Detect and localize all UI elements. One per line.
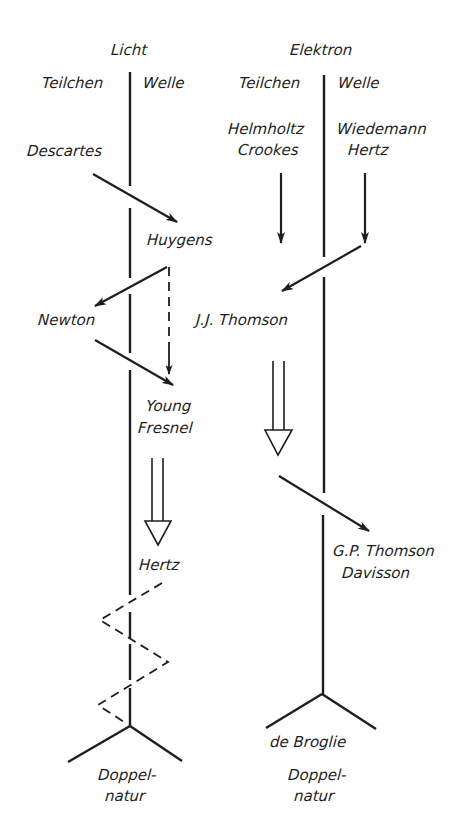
electron-title: Elektron [289,42,352,59]
arrow-newton-young [95,340,173,385]
node-fresnel: Fresnel [137,420,193,437]
electron-result-line1: Doppel- [287,767,347,784]
node-huygens: Huygens [146,232,213,249]
electron-result-line2: natur [293,788,334,805]
electron-fork [266,694,376,729]
light-fork [68,726,182,762]
arrow-to-jj-thomson [282,246,361,291]
node-hertz-electron: Hertz [347,142,389,159]
node-gp-thomson: G.P. Thomson [332,543,435,560]
light-result-line2: natur [104,788,145,805]
node-crookes: Crookes [237,142,299,159]
node-hertz-light: Hertz [138,557,180,574]
node-davisson: Davisson [341,565,410,582]
node-wiedemann: Wiedemann [336,121,427,138]
hollow-arrow-jj-gp [265,361,292,455]
node-helmholtz: Helmholtz [227,121,304,138]
light-result-line1: Doppel- [97,767,157,784]
electron-axis [323,75,324,694]
dashed-zigzag [98,583,168,724]
node-newton: Newton [37,312,95,329]
electron-particle-label: Teilchen [238,75,301,92]
light-title: Licht [110,42,147,59]
light-electron-duality-diagram: Licht Teilchen Welle Descartes Huygens N… [0,0,469,817]
hollow-arrow-young-hertz [145,458,171,545]
arrow-descartes-huygens [93,174,177,222]
node-de-broglie: de Broglie [269,734,346,751]
node-jj-thomson: J.J. Thomson [195,312,288,329]
light-particle-label: Teilchen [41,75,104,92]
node-young: Young [145,398,191,415]
node-descartes: Descartes [26,143,102,160]
light-wave-label: Welle [142,75,185,92]
electron-wave-label: Welle [337,75,380,92]
